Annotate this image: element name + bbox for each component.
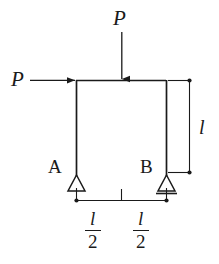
support-label-b: B	[140, 157, 153, 176]
horizontal-load-label: P	[11, 69, 24, 90]
span-left-numerator: l	[87, 209, 98, 229]
span-tick-right	[164, 198, 168, 202]
load-arrows	[30, 32, 122, 80]
height-dimension-label: l	[199, 117, 205, 137]
span-tick-left	[74, 198, 78, 202]
span-dimension	[74, 188, 168, 203]
span-right-denominator: 2	[133, 232, 149, 252]
height-dimension	[168, 78, 192, 174]
span-left-dimension-label: l 2	[85, 209, 101, 252]
structural-frame-figure: P P A B l l 2 l 2	[0, 0, 219, 264]
height-tick-top	[187, 78, 191, 82]
frame-drawing	[0, 0, 219, 264]
span-left-denominator: 2	[85, 232, 101, 252]
span-right-numerator: l	[135, 209, 146, 229]
frame-members	[76, 80, 167, 176]
height-tick-bottom	[187, 170, 191, 174]
vertical-load-label: P	[113, 8, 126, 29]
span-right-dimension-label: l 2	[133, 209, 149, 252]
support-label-a: A	[48, 157, 62, 176]
